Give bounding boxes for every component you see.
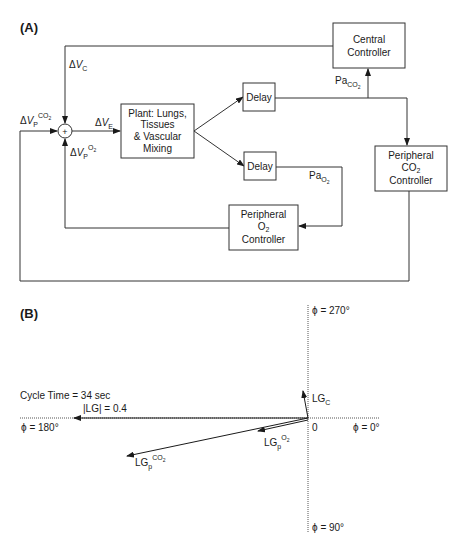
lg-magnitude-label: |LG| = 0.4: [83, 403, 127, 414]
delay-bottom-label: Delay: [247, 161, 273, 172]
panel-a-label: (A): [20, 20, 38, 35]
phi-180-label: ϕ = 180°: [21, 422, 59, 433]
plus-sign: +: [62, 127, 67, 137]
lg-p-o2-label: LGpO2: [264, 434, 290, 451]
plant-to-delay-top: [194, 97, 243, 131]
plant-block: Plant: Lungs, Tissues & Vascular Mixing: [121, 104, 194, 158]
po2-line1: Peripheral: [241, 209, 287, 220]
pa-o2-label: PaO2: [309, 170, 330, 185]
pco2-line3: Controller: [389, 175, 433, 186]
central-controller-line1: Central: [353, 34, 385, 45]
phi-270-label: ϕ = 270°: [312, 305, 350, 316]
phi-90-label: ϕ = 90°: [312, 522, 344, 533]
peripheral-o2-controller-block: Peripheral O2 Controller: [229, 205, 298, 250]
pa-co2-label: PaCO2: [335, 75, 361, 90]
delta-vp-co2-label: ΔVPCO2: [20, 112, 52, 128]
central-controller-block: Central Controller: [333, 23, 405, 68]
pco2-line1: Peripheral: [388, 150, 434, 161]
phi-0-label: ϕ = 0°: [353, 422, 380, 433]
panel-b-label: (B): [20, 306, 38, 321]
plant-line3: & Vascular: [134, 131, 182, 142]
diagram-canvas: (A) Central Controller ΔVC + ΔVPCO2 ΔVE …: [0, 0, 463, 550]
delay-top-label: Delay: [246, 92, 272, 103]
delay-top-block: Delay: [243, 83, 275, 111]
central-controller-line2: Controller: [347, 47, 391, 58]
co2-to-peripheral-path: [275, 98, 407, 145]
delta-vp-o2-label: ΔVPO2: [70, 144, 96, 160]
cycle-time-label: Cycle Time = 34 sec: [20, 390, 110, 401]
plant-line4: Mixing: [143, 143, 172, 154]
delta-ve-label: ΔVE: [95, 117, 113, 130]
lg-p-o2-vector: [258, 420, 308, 431]
lg-c-label: LGC: [312, 393, 330, 406]
plant-to-delay-bottom: [194, 131, 244, 166]
po2-line3: Controller: [242, 234, 286, 245]
summing-junction: +: [58, 124, 72, 138]
lg-p-co2-label: LGpCO2: [135, 454, 166, 471]
delta-vc-label: ΔVC: [69, 59, 87, 72]
peripheral-co2-controller-block: Peripheral CO2 Controller: [375, 146, 447, 191]
plant-line1: Plant: Lungs,: [128, 108, 186, 119]
delay-bottom-block: Delay: [244, 152, 276, 180]
origin-label: 0: [312, 422, 318, 433]
central-feedback-path: [65, 46, 333, 123]
plant-line2: Tissues: [140, 119, 174, 130]
lg-c-vector: [303, 391, 308, 418]
